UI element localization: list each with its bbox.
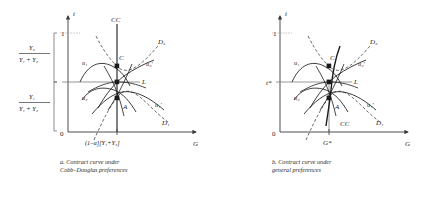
panel-a-point-c (115, 64, 120, 69)
panel-b-point-a-label: A (334, 103, 340, 111)
panel-b-y-axis-label: t (285, 10, 288, 18)
panel-a-caption-line2: Cobb–Douglas preferences (60, 166, 190, 174)
panel-a-tick-one-label: 1 (61, 30, 65, 38)
economics-figure: t G 0 1 Y₂ Y₁ + Y₂ Y₁ Y₁ + Y₂ (1–α][Y₁+Y… (0, 0, 426, 198)
panel-b-tick-tstar-label: t* (266, 79, 272, 87)
panel-b-caption: b. Contract curve under general preferen… (272, 158, 402, 174)
panel-b-caption-line1: b. Contract curve under (272, 158, 402, 166)
panel-b-point-a (327, 96, 332, 101)
panel-a-y-axis-label: t (73, 10, 76, 18)
panel-a-bracket-upper-num: Y₂ (29, 44, 36, 51)
panel-a-u2-prime-label: u₂′ (146, 60, 153, 67)
panel-a-bracket-upper-den: Y₁ + Y₂ (19, 56, 39, 63)
panel-a-indiff-u1 (80, 63, 130, 86)
panel-b-x-tick-label: G* (323, 139, 332, 147)
panel-a-u1-label: u₁ (82, 59, 87, 66)
panel-a-point-l (115, 80, 120, 85)
panel-a-u2-label: u₂ (82, 94, 88, 101)
panel-a: t G 0 1 Y₂ Y₁ + Y₂ Y₁ Y₁ + Y₂ (1–α][Y₁+Y… (19, 10, 198, 148)
panel-a-point-a (115, 96, 120, 101)
panel-b-point-l (327, 80, 332, 85)
panel-a-point-l-label: L (141, 78, 146, 86)
panel-b-origin-label: 0 (272, 130, 276, 138)
panel-b-point-c (327, 64, 332, 69)
panel-b-cc-label: CC (340, 120, 350, 128)
panel-b-u1-prime-label: u₁′ (367, 101, 374, 108)
panel-a-bracket-lower-num: Y₁ (29, 93, 35, 100)
panel-a-x-tick-label: (1–α][Y₁+Y₂] (85, 139, 120, 147)
panel-a-caption: a. Contract curve under Cobb–Douglas pre… (60, 158, 190, 174)
panel-a-d2-label: D₂ (157, 38, 166, 46)
panel-b-d2-label: D₂ (369, 38, 378, 46)
panel-a-demand-d1 (94, 91, 168, 140)
panel-b: t G 0 1 t* G* CC D₂ D₁ u₁ u₂ u₁′ u₂′ C L… (266, 10, 410, 148)
panel-a-point-c-label: C (119, 54, 124, 62)
panel-a-indiff-extra-2 (104, 66, 124, 116)
panel-a-point-a-label: A (122, 103, 128, 111)
panel-b-point-l-label: L (353, 78, 358, 86)
panel-b-caption-line2: general preferences (272, 166, 402, 174)
panel-b-d1-label: D₁ (375, 119, 384, 127)
panel-b-demand-d1 (306, 91, 380, 140)
panel-a-bracket-upper (54, 33, 57, 82)
panel-a-u1-prime-label: u₁′ (155, 101, 162, 108)
panel-a-x-axis-label: G (193, 140, 198, 148)
panel-b-u2-label: u₂ (294, 94, 300, 101)
panel-b-u2-prime-label: u₂′ (358, 60, 365, 67)
panel-b-indiff-u1-prime (304, 92, 376, 114)
panel-b-tick-one-label: 1 (273, 30, 277, 38)
panel-a-indiff-u1-prime (92, 92, 164, 114)
panel-b-point-c-label: C (330, 54, 335, 62)
panel-b-u1-label: u₁ (294, 59, 299, 66)
panel-b-x-axis-label: G (405, 140, 410, 148)
panel-a-cc-label: CC (111, 16, 121, 24)
panel-a-caption-line1: a. Contract curve under (60, 158, 190, 166)
panel-a-d1-label: D₁ (161, 119, 170, 127)
panel-a-bracket-lower-den: Y₁ + Y₂ (19, 105, 39, 112)
panel-a-bracket-lower (54, 82, 57, 131)
panel-a-origin-label: 0 (60, 130, 64, 138)
